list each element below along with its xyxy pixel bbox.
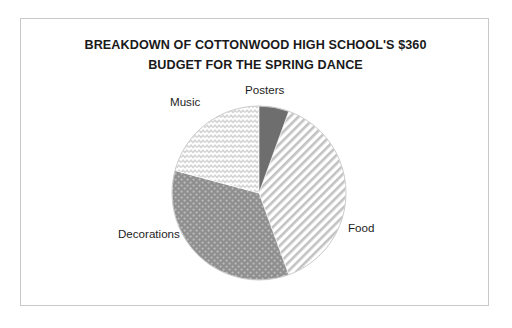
pie-slices [172,106,346,280]
pie-chart [21,19,490,307]
pie-label-posters: Posters [245,83,284,96]
pie-label-music: Music [170,95,200,108]
pie-label-decorations: Decorations [118,227,180,240]
chart-frame: BREAKDOWN OF COTTONWOOD HIGH SCHOOL'S $3… [20,18,489,306]
pie-label-food: Food [348,221,374,234]
